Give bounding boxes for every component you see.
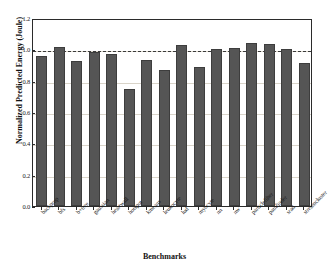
bar bbox=[281, 49, 292, 206]
bar bbox=[159, 70, 170, 206]
bar bbox=[106, 54, 117, 206]
bars-group bbox=[33, 20, 311, 206]
y-tick-label: 0.6 bbox=[0, 109, 30, 116]
y-tick-mark bbox=[32, 207, 35, 208]
y-tick-label: 0.2 bbox=[0, 172, 30, 179]
x-axis-title: Benchmarks bbox=[0, 252, 329, 261]
bar bbox=[54, 47, 65, 206]
bar bbox=[176, 45, 187, 206]
y-tick-mark bbox=[32, 176, 35, 177]
y-tick-mark bbox=[32, 144, 35, 145]
y-tick-label: 1.0 bbox=[0, 46, 30, 53]
bar bbox=[89, 52, 100, 206]
y-tick-mark bbox=[32, 19, 35, 20]
bar bbox=[124, 89, 135, 206]
y-tick-label: 0.8 bbox=[0, 78, 30, 85]
x-tick-label: bfs bbox=[57, 206, 66, 215]
x-tick-label: nn bbox=[215, 207, 223, 215]
bar bbox=[71, 61, 82, 206]
bar bbox=[246, 43, 257, 206]
plot-area bbox=[32, 19, 312, 207]
bar bbox=[36, 56, 47, 206]
y-tick-mark bbox=[32, 113, 35, 114]
bar bbox=[141, 60, 152, 206]
y-tick-label: 1.2 bbox=[0, 15, 30, 22]
bar bbox=[299, 63, 310, 206]
bar bbox=[229, 48, 240, 206]
y-tick-mark bbox=[32, 82, 35, 83]
y-tick-label: 0.4 bbox=[0, 140, 30, 147]
bar bbox=[264, 44, 275, 206]
y-tick-mark bbox=[32, 50, 35, 51]
bar bbox=[194, 67, 205, 206]
bar bbox=[211, 49, 222, 206]
y-tick-label: 0.0 bbox=[0, 203, 30, 210]
energy-bar-chart: Normalized Predicted Energy (Joule) 0.00… bbox=[0, 0, 329, 270]
